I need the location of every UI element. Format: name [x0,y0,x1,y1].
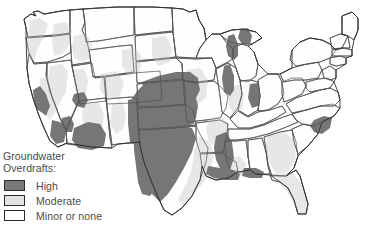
legend-label-minor-or-none: Minor or none [36,210,102,222]
legend-item-moderate[interactable]: Moderate [3,193,153,208]
state-ohio [258,74,284,111]
legend-rows: High Moderate Minor or none [3,178,153,223]
legend-title-line-2: Overdrafts: [3,162,56,174]
state-north-dakota [134,7,173,35]
legend-label-high: High [36,180,58,192]
legend-item-minor-or-none[interactable]: Minor or none [3,208,153,223]
high-swatch [4,180,25,191]
legend-item-high[interactable]: High [3,178,153,193]
legend-title-line-1: Groundwater [3,150,65,162]
state-new-york [290,38,336,66]
moderate-florida [276,172,308,216]
map-legend: GroundwaterOverdrafts: High Moderate Min… [3,151,153,223]
minor-or-none-swatch [4,210,25,221]
legend-label-moderate: Moderate [36,195,81,207]
legend-title: GroundwaterOverdrafts: [3,151,153,174]
state-montana [83,7,134,42]
moderate-swatch [4,195,25,206]
groundwater-overdraft-map-figure: GroundwaterOverdrafts: High Moderate Min… [0,0,366,230]
